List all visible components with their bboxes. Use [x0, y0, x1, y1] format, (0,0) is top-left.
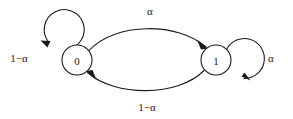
transition-1-to-0-label: 1−α: [138, 101, 156, 113]
transition-0-to-1-arrowhead: [197, 40, 208, 50]
state-diagram-canvas: 0 1 α 1−α 1−α α: [0, 0, 293, 119]
transition-1-to-0-path: [88, 71, 205, 91]
state-node-0[interactable]: 0: [62, 45, 92, 75]
self-loop-state-1-arrowhead: [242, 73, 251, 81]
self-loop-state-0-arrowhead: [41, 41, 51, 48]
state-node-1-label: 1: [213, 55, 219, 67]
self-loop-state-1: [227, 39, 265, 81]
transition-0-to-1-label: α: [147, 5, 153, 17]
transition-1-to-0: [86, 70, 204, 91]
state-diagram: 0 1 α 1−α 1−α α: [0, 0, 293, 119]
transition-0-to-1-path: [89, 29, 206, 51]
self-loop-state-0-label: 1−α: [10, 52, 28, 64]
transition-0-to-1: [89, 29, 208, 51]
self-loop-state-0: [41, 10, 85, 50]
self-loop-state-1-label: α: [268, 52, 274, 64]
state-node-1[interactable]: 1: [201, 45, 231, 75]
self-loop-state-0-path: [44, 10, 84, 50]
self-loop-state-1-path: [227, 39, 265, 79]
state-node-0-label: 0: [74, 55, 80, 67]
transition-1-to-0-arrowhead: [86, 70, 97, 80]
